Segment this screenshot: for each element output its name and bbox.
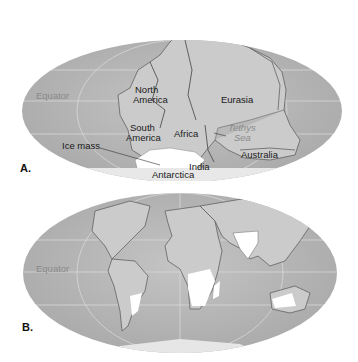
- panel-a-pangaea-map: Equator North America Eurasia South Amer…: [0, 0, 358, 181]
- panel-b-modern-map: Equator B.: [0, 181, 358, 362]
- label-ice-mass: Ice mass: [62, 141, 100, 151]
- label-equator: Equator: [36, 91, 69, 101]
- label-eurasia: Eurasia: [221, 95, 253, 105]
- panel-letter-b: B.: [22, 321, 33, 333]
- label-tethys-2: Sea: [234, 133, 251, 143]
- label-north-america-2: America: [133, 95, 168, 105]
- label-africa: Africa: [174, 129, 198, 139]
- label-equator: Equator: [36, 264, 69, 274]
- panel-letter-a: A.: [20, 162, 31, 174]
- label-south-america-2: America: [126, 133, 161, 143]
- label-antarctica: Antarctica: [152, 170, 194, 180]
- label-australia: Australia: [241, 150, 278, 160]
